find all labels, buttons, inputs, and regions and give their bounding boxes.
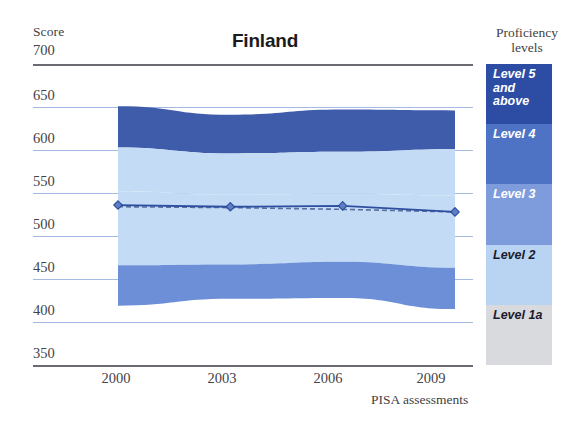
x-tick-2006: 2006 (293, 370, 363, 387)
band-level-3 (118, 191, 455, 268)
x-tick-2000: 2000 (81, 370, 151, 387)
legend-item-level-4[interactable]: Level 4 (486, 124, 552, 184)
legend-item-level-2[interactable]: Level 2 (486, 245, 552, 305)
legend-item-level-3[interactable]: Level 3 (486, 184, 552, 244)
legend-swatch-column: Level 5 and above Level 4 Level 3 Level … (486, 64, 552, 365)
band-level-2 (118, 262, 455, 309)
y-axis-title: Score (33, 24, 64, 40)
y-tick-700: 700 (33, 42, 55, 59)
chart-title: Finland (150, 30, 380, 52)
plot-area (33, 64, 473, 365)
legend-label-level-2: Level 2 (486, 245, 535, 263)
gridline-350-axis (33, 365, 473, 367)
legend-title: Proficiency levels (478, 25, 576, 55)
band-level-4 (118, 147, 455, 195)
chart-canvas: Finland Score 700 650 600 550 500 450 40… (0, 0, 580, 423)
legend-title-line2: levels (478, 40, 576, 55)
x-tick-2009: 2009 (396, 370, 466, 387)
band-chart-svg (33, 64, 473, 365)
band-level-5-and-above (118, 106, 455, 153)
x-tick-2003: 2003 (187, 370, 257, 387)
legend-label-level-4: Level 4 (486, 124, 535, 142)
legend-item-level-5[interactable]: Level 5 and above (486, 64, 552, 124)
legend-label-level-3: Level 3 (486, 184, 535, 202)
legend-label-level-1a: Level 1a (486, 305, 542, 323)
legend-item-level-1a[interactable]: Level 1a (486, 305, 552, 365)
legend-label-level-5: Level 5 and above (486, 64, 535, 109)
legend-title-line1: Proficiency (478, 25, 576, 40)
x-axis-title: PISA assessments (371, 392, 468, 408)
